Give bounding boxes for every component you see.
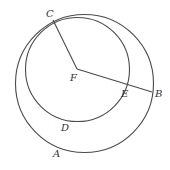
label-b: B [154,88,162,99]
geometry-diagram: C F E B D A [0,0,170,170]
label-c: C [46,8,54,19]
outer-circle [16,15,154,153]
segment-fc [53,20,77,69]
segment-fb [77,69,152,92]
label-f: F [69,72,78,83]
label-d: D [60,122,69,133]
label-a: A [52,148,60,159]
label-e: E [120,88,129,99]
